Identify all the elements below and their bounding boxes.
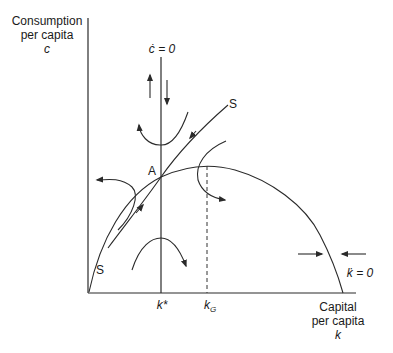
saddle-path [108, 105, 228, 248]
trajectory-left [97, 179, 135, 230]
phase-diagram [0, 0, 393, 353]
saddle-arrow-upper [190, 131, 196, 138]
trajectory-upper-left [139, 112, 188, 145]
trajectory-lower [132, 238, 186, 270]
trajectory-right [197, 141, 226, 200]
k-dot-zero-locus [89, 166, 343, 293]
